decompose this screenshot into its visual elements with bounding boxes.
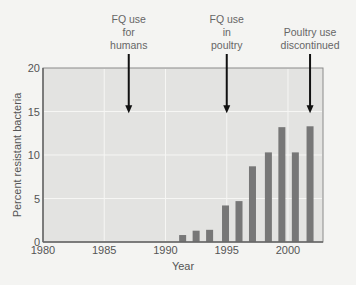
bar-1995 xyxy=(222,205,229,242)
bar-1999 xyxy=(278,127,285,242)
bar-1996 xyxy=(236,201,243,242)
bar-1993 xyxy=(193,231,200,242)
x-tick-label: 2000 xyxy=(276,244,300,256)
annotation-label-3: Poultry use discontinued xyxy=(265,26,355,52)
x-tick-label: 1985 xyxy=(92,244,116,256)
bar-1998 xyxy=(265,152,272,242)
bar-1994 xyxy=(206,230,213,242)
bar-2000 xyxy=(292,152,299,242)
x-tick-labels: 19801985199019952000 xyxy=(31,244,300,256)
x-axis-label: Year xyxy=(172,260,195,272)
x-tick-label: 1980 xyxy=(31,244,55,256)
y-tick-label: 20 xyxy=(28,62,40,74)
annotation-label-2: FQ use in poultry xyxy=(182,13,272,52)
y-tick-label: 10 xyxy=(28,149,40,161)
y-tick-label: 5 xyxy=(34,193,40,205)
x-tick-label: 1995 xyxy=(215,244,239,256)
bar-1992 xyxy=(179,235,186,242)
y-axis-label: Percent resistant bacteria xyxy=(11,92,23,218)
y-tick-label: 15 xyxy=(28,106,40,118)
annotation-label-1: FQ use for humans xyxy=(84,13,174,52)
y-tick-labels: 05101520 xyxy=(28,62,40,248)
x-tick-label: 1990 xyxy=(153,244,177,256)
bar-1997 xyxy=(249,166,256,242)
bar-2001 xyxy=(307,126,314,242)
